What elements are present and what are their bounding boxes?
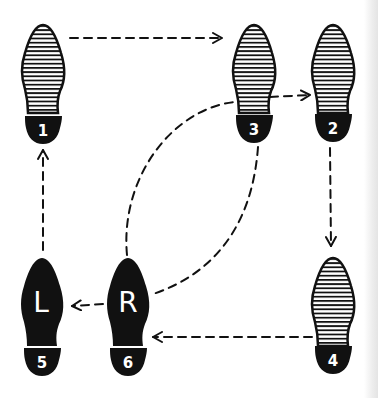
foot-letter-right: R (118, 286, 137, 319)
step-number-6: 6 (123, 354, 133, 372)
footprint-3: 3 (233, 25, 275, 143)
footprint-4: 4 (312, 258, 354, 374)
step-number-2: 2 (328, 120, 338, 138)
step-number-1: 1 (38, 122, 48, 140)
path-3-to-2 (270, 95, 310, 97)
path-curve-3-to-6-right (153, 147, 258, 294)
footprint-6-right: R 6 (107, 258, 149, 376)
path-2-to-4 (330, 148, 331, 246)
footprint-2: 2 (312, 25, 354, 142)
foot-letter-left: L (33, 286, 49, 319)
step-number-4: 4 (328, 352, 338, 370)
dance-step-diagram: 1 3 2 4 L 5 R (0, 0, 378, 398)
path-6-to-5 (72, 304, 103, 306)
diagram-svg: 1 3 2 4 L 5 R (0, 0, 378, 398)
footprint-1: 1 (22, 25, 64, 144)
step-number-5: 5 (37, 354, 47, 372)
path-curve-6-to-3-left (126, 102, 234, 255)
step-number-3: 3 (249, 121, 259, 139)
footprint-5-left: L 5 (21, 258, 63, 376)
